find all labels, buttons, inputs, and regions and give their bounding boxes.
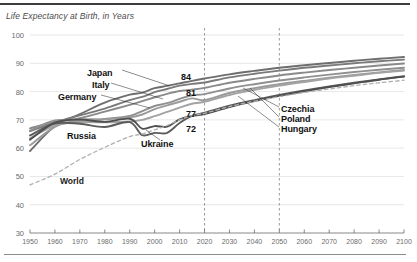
x-tick-marks xyxy=(30,230,404,234)
y-tick-100: 100 xyxy=(4,31,24,40)
series-label-czechia: Czechia xyxy=(281,104,314,114)
x-tick-1960: 1960 xyxy=(42,238,68,245)
x-tick-2020: 2020 xyxy=(192,238,218,245)
x-tick-1970: 1970 xyxy=(67,238,93,245)
series-label-poland: Poland xyxy=(281,114,310,124)
x-tick-2100: 2100 xyxy=(391,238,417,245)
series-label-world: World xyxy=(60,176,84,186)
x-tick-2050: 2050 xyxy=(266,238,292,245)
y-tick-50: 50 xyxy=(4,172,24,181)
y-tick-80: 80 xyxy=(4,88,24,97)
y-tick-90: 90 xyxy=(4,59,24,68)
x-tick-2010: 2010 xyxy=(167,238,193,245)
y-tick-40: 40 xyxy=(4,201,24,210)
x-tick-2070: 2070 xyxy=(316,238,342,245)
divider-bottom xyxy=(4,254,406,255)
series-label-russia: Russia xyxy=(67,131,96,141)
y-tick-70: 70 xyxy=(4,116,24,125)
value-label-77: 77 xyxy=(186,109,196,119)
x-tick-2030: 2030 xyxy=(216,238,242,245)
x-tick-1980: 1980 xyxy=(92,238,118,245)
series-label-ukraine: Ukraine xyxy=(141,139,173,149)
series-label-japan: Japan xyxy=(87,68,113,78)
x-tick-2040: 2040 xyxy=(241,238,267,245)
series-label-germany: Germany xyxy=(58,92,96,102)
series-label-hungary: Hungary xyxy=(281,124,317,134)
x-tick-1990: 1990 xyxy=(117,238,143,245)
value-label-84: 84 xyxy=(181,72,191,82)
x-tick-2060: 2060 xyxy=(291,238,317,245)
value-label-81: 81 xyxy=(186,88,196,98)
x-tick-2000: 2000 xyxy=(142,238,168,245)
projection-markers xyxy=(205,28,280,233)
leader-japan xyxy=(122,70,170,86)
x-tick-1950: 1950 xyxy=(17,238,43,245)
y-tick-60: 60 xyxy=(4,144,24,153)
series-label-italy: Italy xyxy=(92,80,110,90)
x-tick-2080: 2080 xyxy=(341,238,367,245)
leader-poland xyxy=(250,88,279,117)
x-tick-2090: 2090 xyxy=(366,238,392,245)
value-label-72: 72 xyxy=(186,124,196,134)
y-tick-30: 30 xyxy=(4,229,24,238)
